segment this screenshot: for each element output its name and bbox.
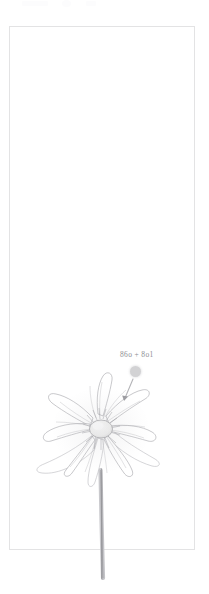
annotation-label: 86o + 8o1 [120, 350, 154, 359]
top-cropped-strip [0, 0, 209, 9]
image-frame [9, 26, 195, 550]
ghost-element-2 [62, 0, 71, 7]
annotation-dot[interactable] [130, 366, 141, 377]
ghost-element-1 [22, 1, 48, 6]
ghost-element-3 [86, 1, 96, 6]
